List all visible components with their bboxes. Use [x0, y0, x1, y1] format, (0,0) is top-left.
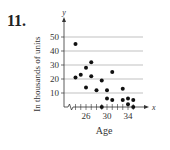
data-point — [105, 88, 109, 92]
y-axis-symbol: y — [61, 8, 66, 17]
data-point — [89, 74, 93, 78]
x-axis-label: Age — [96, 125, 113, 136]
data-point — [110, 70, 114, 74]
data-point — [74, 76, 78, 80]
x-arrow-icon — [144, 105, 149, 109]
data-point — [84, 85, 88, 89]
x-tick-label: 30 — [103, 111, 113, 121]
data-point — [89, 60, 93, 64]
data-point — [100, 105, 104, 109]
data-point — [126, 102, 130, 106]
y-tick-label: 40 — [50, 46, 60, 56]
y-tick-label: 30 — [50, 60, 60, 70]
y-tick-label: 10 — [50, 88, 60, 98]
data-point — [74, 42, 78, 46]
y-axis-label: In thousands of units — [32, 36, 42, 112]
data-point — [131, 98, 135, 102]
x-tick-label: 34 — [124, 111, 134, 121]
y-tick-label: 20 — [50, 74, 60, 84]
data-point — [100, 78, 104, 82]
data-point — [121, 87, 125, 91]
data-point — [95, 88, 99, 92]
x-tick-label: 26 — [82, 111, 92, 121]
scatter-chart: 1020304050yx263034AgeIn thousands of uni… — [0, 0, 170, 150]
data-point — [121, 98, 125, 102]
data-point — [105, 97, 109, 101]
data-point — [84, 66, 88, 70]
data-point — [126, 97, 130, 101]
x-axis-symbol: x — [151, 103, 156, 112]
data-point — [131, 105, 135, 109]
data-point — [110, 98, 114, 102]
y-arrow-icon — [62, 17, 66, 22]
data-point — [79, 73, 83, 77]
y-tick-label: 50 — [50, 32, 60, 42]
